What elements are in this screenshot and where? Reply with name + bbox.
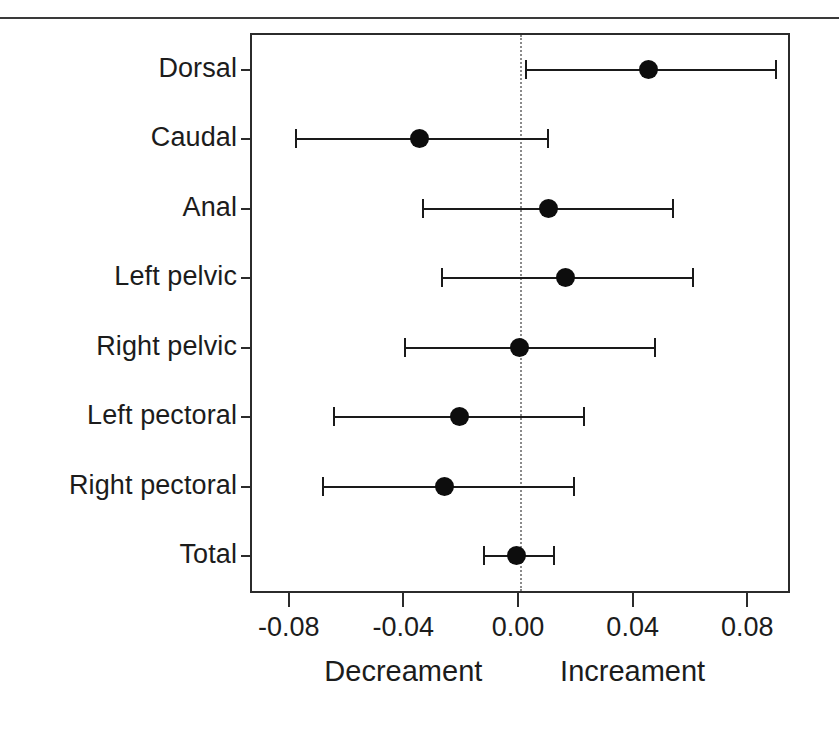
ci-cap-low	[333, 407, 335, 426]
x-axis-tick	[288, 593, 290, 607]
x-axis-tick	[632, 593, 634, 607]
x-axis-tick-label: 0.08	[721, 612, 774, 643]
y-axis-tick	[241, 347, 252, 349]
ci-cap-low	[483, 546, 485, 565]
y-axis-tick-label: Anal	[183, 191, 237, 222]
ci-cap-high	[553, 546, 555, 565]
x-axis-tick-label: 0.00	[492, 612, 545, 643]
ci-cap-high	[654, 338, 656, 357]
ci-cap-high	[547, 129, 549, 148]
increment-caption: Increament	[560, 655, 705, 688]
data-point-marker	[556, 268, 575, 287]
ci-cap-high	[692, 268, 694, 287]
y-axis-tick	[241, 486, 252, 488]
ci-cap-high	[583, 407, 585, 426]
y-axis-tick-label: Left pectoral	[87, 400, 237, 431]
zero-reference-line	[520, 35, 522, 591]
x-axis-tick	[517, 593, 519, 607]
ci-cap-high	[573, 477, 575, 496]
x-axis: -0.08-0.040.000.040.08DecreamentIncreame…	[250, 593, 790, 713]
y-axis-tick	[241, 555, 252, 557]
x-axis-tick	[402, 593, 404, 607]
ci-cap-low	[422, 199, 424, 218]
data-point-marker	[450, 407, 469, 426]
y-axis-tick-label: Right pelvic	[96, 330, 237, 361]
y-axis-tick-label: Left pelvic	[114, 261, 237, 292]
x-axis-tick-label: -0.08	[258, 612, 320, 643]
ci-cap-low	[441, 268, 443, 287]
ci-cap-low	[525, 60, 527, 79]
y-axis-labels: DorsalCaudalAnalLeft pelvicRight pelvicL…	[0, 33, 237, 593]
y-axis-tick	[241, 277, 252, 279]
y-axis-tick	[241, 416, 252, 418]
y-axis-tick-label: Dorsal	[158, 52, 237, 83]
y-axis-tick-label: Right pectoral	[69, 469, 237, 500]
ci-cap-low	[295, 129, 297, 148]
y-axis-tick	[241, 138, 252, 140]
ci-cap-high	[672, 199, 674, 218]
data-point-marker	[410, 129, 429, 148]
y-axis-tick	[241, 69, 252, 71]
data-point-marker	[639, 60, 658, 79]
y-axis-tick-label: Total	[179, 539, 237, 570]
data-point-marker	[510, 338, 529, 357]
x-axis-tick-label: 0.04	[606, 612, 659, 643]
ci-cap-low	[404, 338, 406, 357]
data-point-marker	[507, 546, 526, 565]
decrement-caption: Decreament	[324, 655, 482, 688]
data-point-marker	[539, 199, 558, 218]
scan-artifact-rule	[0, 17, 839, 19]
chart-page: DorsalCaudalAnalLeft pelvicRight pelvicL…	[0, 0, 839, 729]
ci-cap-low	[322, 477, 324, 496]
y-axis-tick-label: Caudal	[151, 122, 237, 153]
data-point-marker	[435, 477, 454, 496]
ci-cap-high	[775, 60, 777, 79]
y-axis-tick	[241, 208, 252, 210]
plot-area	[250, 33, 790, 593]
x-axis-tick	[746, 593, 748, 607]
x-axis-tick-label: -0.04	[373, 612, 435, 643]
